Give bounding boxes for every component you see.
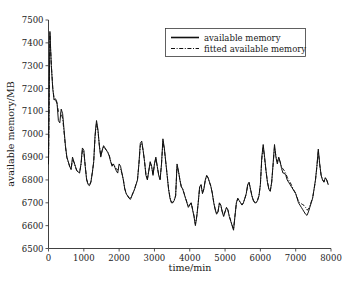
x-tick-label: 3000 [144, 253, 166, 263]
y-tick-label: 6800 [22, 175, 44, 185]
y-tick-label: 7200 [22, 84, 44, 94]
legend-label-available-memory: available memory [204, 33, 281, 43]
y-tick-label: 6900 [22, 152, 44, 162]
y-tick-label: 7400 [22, 38, 44, 48]
x-tick-label: 7000 [285, 253, 307, 263]
y-tick-label: 7300 [22, 61, 44, 71]
x-tick-label: 4000 [179, 253, 201, 263]
x-tick-label: 6000 [250, 253, 272, 263]
y-tick-label: 6500 [22, 244, 44, 254]
line-chart: 6500660067006800690070007100720073007400… [0, 0, 359, 288]
x-axis-title: time/min [169, 262, 212, 273]
y-tick-label: 7100 [22, 106, 44, 116]
legend-label-fitted-available-memory: fitted available memory [204, 44, 306, 54]
x-tick-label: 1000 [73, 253, 95, 263]
x-tick-label: 0 [46, 253, 51, 263]
x-tick-label: 2000 [108, 253, 130, 263]
caption-strip [0, 279, 359, 288]
y-axis-title: available memory/MB [5, 81, 16, 186]
y-tick-label: 7500 [22, 15, 44, 25]
y-tick-label: 7000 [22, 129, 44, 139]
x-tick-label: 8000 [320, 253, 342, 263]
y-tick-label: 6700 [22, 198, 44, 208]
x-tick-label: 5000 [214, 253, 236, 263]
memory-usage-figure: 6500660067006800690070007100720073007400… [0, 0, 359, 288]
y-tick-label: 6600 [22, 221, 44, 231]
